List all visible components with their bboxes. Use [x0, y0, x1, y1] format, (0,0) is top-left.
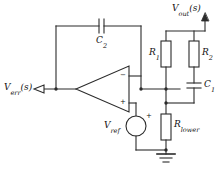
label-v-ref: Vref — [104, 121, 120, 130]
circuit-diagram-canvas: Verr(s) Vout(s) C2 R1 R2 C1 Rlower Vref … — [0, 0, 223, 171]
label-c2: C2 — [96, 36, 107, 45]
opamp-noninverting-sign: + — [120, 99, 126, 106]
label-v-err: Verr(s) — [4, 83, 32, 92]
opamp-inverting-sign: − — [120, 72, 126, 79]
verr-arrowhead — [34, 85, 44, 93]
node-dot-inverting — [139, 87, 142, 90]
label-v-out-arg: (s) — [189, 3, 201, 13]
label-v-err-subscript: err — [11, 89, 21, 97]
label-r1: R1 — [149, 48, 160, 57]
label-v-ref-symbol: V — [104, 120, 111, 130]
label-c1-subscript: 1 — [211, 86, 215, 94]
label-r-lower-symbol: R — [174, 119, 181, 129]
vref-polarity-sign: + — [146, 113, 152, 120]
label-r1-symbol: R — [149, 47, 156, 57]
label-v-out-symbol: V — [172, 3, 179, 13]
label-v-out-subscript: out — [179, 10, 190, 18]
label-r-lower-subscript: lower — [181, 126, 200, 134]
label-r2-subscript: 2 — [209, 54, 213, 62]
vout-arrowhead — [202, 13, 209, 21]
r2-body — [189, 41, 199, 67]
rlower-body — [161, 114, 171, 140]
node-dot-verr — [54, 87, 57, 90]
label-r2-symbol: R — [202, 47, 209, 57]
label-v-err-arg: (s) — [21, 82, 33, 92]
schematic-svg — [0, 0, 223, 171]
label-c1-symbol: C — [204, 79, 211, 89]
label-r2: R2 — [202, 48, 213, 57]
label-r-lower: Rlower — [174, 120, 199, 129]
label-v-err-symbol: V — [4, 82, 11, 92]
vref-source-circle — [126, 116, 146, 136]
label-r1-subscript: 1 — [156, 54, 160, 62]
label-v-out: Vout(s) — [172, 4, 201, 13]
label-v-ref-subscript: ref — [111, 127, 120, 135]
label-c2-symbol: C — [96, 35, 103, 45]
label-c1: C1 — [204, 80, 215, 89]
r1-body — [161, 41, 171, 67]
label-c2-subscript: 2 — [103, 42, 107, 50]
